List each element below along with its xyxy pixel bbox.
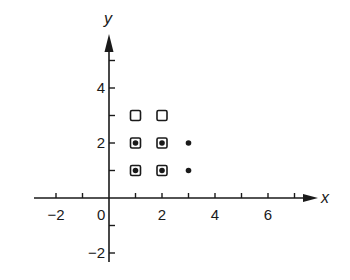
dot-marker <box>186 168 192 174</box>
dot-marker <box>133 168 139 174</box>
y-tick-label: −2 <box>88 244 105 261</box>
square-marker <box>131 111 141 121</box>
x-tick-label: 4 <box>211 206 219 223</box>
dot-marker <box>133 140 139 146</box>
coordinate-plane: −2024642−2 x y <box>0 0 350 280</box>
x-axis-label: x <box>320 189 330 206</box>
x-axis-arrow-icon <box>303 194 318 202</box>
axes <box>34 34 318 262</box>
dot-marker <box>159 140 165 146</box>
dot-marker <box>159 168 165 174</box>
axis-ticks <box>56 61 295 254</box>
x-tick-label: 6 <box>264 206 272 223</box>
x-tick-label: 0 <box>97 206 105 223</box>
y-tick-label: 2 <box>97 134 105 151</box>
square-marker <box>157 111 167 121</box>
y-tick-label: 4 <box>97 79 105 96</box>
dot-markers <box>133 140 192 173</box>
y-axis-label: y <box>103 10 113 27</box>
x-tick-label: −2 <box>47 206 64 223</box>
dot-marker <box>186 140 192 146</box>
y-axis-arrow-icon <box>105 34 114 52</box>
x-tick-label: 2 <box>158 206 166 223</box>
